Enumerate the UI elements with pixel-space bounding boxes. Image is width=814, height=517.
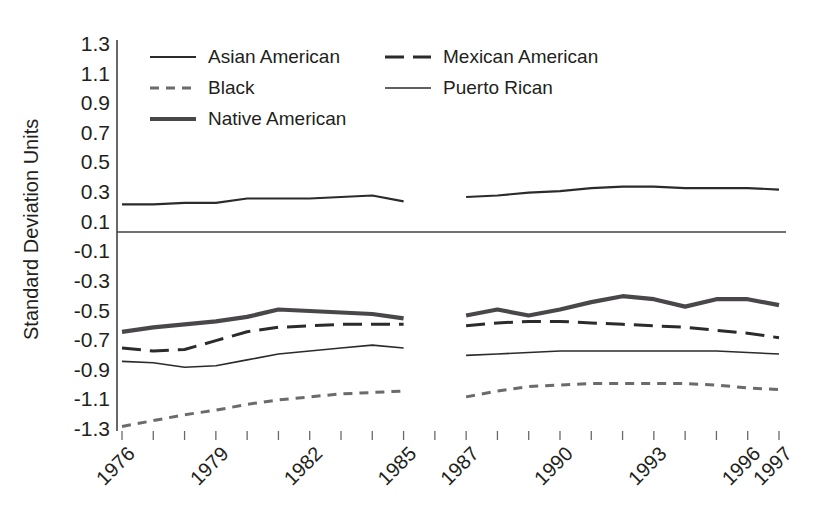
- y-tick-label: -0.9: [74, 358, 110, 381]
- line-chart: Standard Deviation Units 1.31.10.90.70.5…: [0, 0, 814, 517]
- y-tick-label: 1.3: [81, 32, 110, 55]
- legend-label-asian-american: Asian American: [208, 46, 340, 67]
- y-tick-label: 0.9: [81, 91, 110, 114]
- legend-label-black: Black: [208, 77, 255, 98]
- y-tick-label: 0.1: [81, 210, 110, 233]
- y-tick-label: -0.1: [74, 239, 110, 262]
- y-tick-label: 0.7: [81, 121, 110, 144]
- y-tick-label: -1.3: [74, 417, 110, 440]
- legend-label-native-american: Native American: [208, 108, 346, 129]
- y-tick-label: 0.3: [81, 180, 110, 203]
- legend-label-mexican-american: Mexican American: [443, 46, 598, 67]
- y-tick-label: -0.3: [74, 269, 110, 292]
- y-tick-label: -0.7: [74, 328, 110, 351]
- y-tick-label: -0.5: [74, 299, 110, 322]
- y-axis-title: Standard Deviation Units: [20, 119, 42, 340]
- y-tick-label: 0.5: [81, 150, 110, 173]
- y-tick-label: 1.1: [81, 62, 110, 85]
- y-axis-title-text: Standard Deviation Units: [20, 119, 42, 340]
- legend-label-puerto-rican: Puerto Rican: [443, 77, 553, 98]
- y-tick-label: -1.1: [74, 387, 110, 410]
